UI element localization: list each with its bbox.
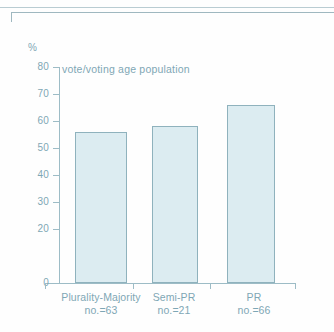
- y-tick-label: 40: [25, 170, 49, 180]
- y-tick-mark: [53, 121, 59, 122]
- y-tick-label: 50: [25, 143, 49, 153]
- y-axis-unit-label: %: [28, 42, 37, 53]
- y-tick-mark: [53, 148, 59, 149]
- x-label-category: Semi-PR: [136, 291, 212, 304]
- y-tick-label: 70: [25, 89, 49, 99]
- bar-chart-figure: % vote/voting age population 80 70 60 50…: [0, 0, 334, 332]
- y-tick-mark: [53, 202, 59, 203]
- y-tick-mark: [53, 94, 59, 95]
- bar-semi-pr: [152, 126, 198, 283]
- chart-title: vote/voting age population: [62, 63, 190, 75]
- x-separator-tick: [295, 283, 296, 289]
- x-axis-label-pr: PR no.=66: [213, 291, 295, 317]
- x-label-count: no.=66: [213, 304, 295, 317]
- x-label-count: no.=21: [136, 304, 212, 317]
- y-tick-mark: [53, 175, 59, 176]
- y-tick-label: 20: [25, 224, 49, 234]
- y-tick-mark: [53, 229, 59, 230]
- x-axis-line: [45, 283, 296, 284]
- bar-plurality-majority: [75, 132, 127, 283]
- x-axis-label-semi-pr: Semi-PR no.=21: [136, 291, 212, 317]
- y-tick-label: 30: [25, 197, 49, 207]
- y-axis-line: [59, 67, 60, 284]
- y-tick-label: 60: [25, 116, 49, 126]
- bar-pr: [227, 105, 275, 283]
- x-separator-tick: [210, 283, 211, 289]
- plot-area: % vote/voting age population 80 70 60 50…: [0, 0, 334, 332]
- y-tick-label: 80: [25, 62, 49, 72]
- y-tick-mark: [53, 67, 59, 68]
- y-tick-mark: [53, 283, 59, 284]
- x-separator-tick: [133, 283, 134, 289]
- x-separator-tick: [45, 283, 46, 289]
- x-label-category: PR: [213, 291, 295, 304]
